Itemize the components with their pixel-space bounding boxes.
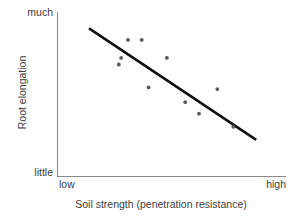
data-point <box>140 38 144 42</box>
plot-area <box>0 0 296 221</box>
data-point <box>126 38 130 42</box>
data-point <box>165 56 169 60</box>
data-point <box>215 87 219 91</box>
trend-line <box>89 28 256 140</box>
data-point <box>119 56 123 60</box>
data-point <box>183 100 187 104</box>
data-point <box>231 125 235 129</box>
data-point <box>197 112 201 116</box>
data-point <box>147 86 151 90</box>
data-point <box>117 63 121 67</box>
scatter-chart-figure: much little low high Root elongation Soi… <box>0 0 296 221</box>
